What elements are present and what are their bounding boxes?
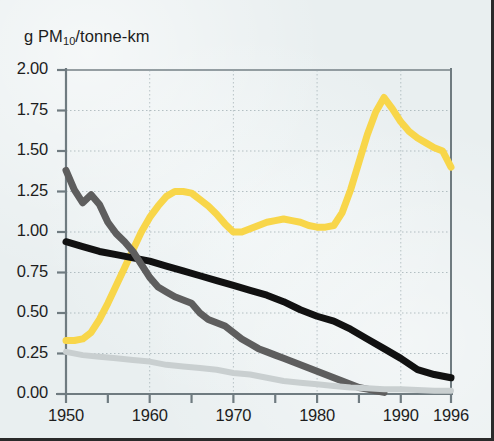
x-tick-label: 1970 [203, 406, 263, 425]
x-tick-label: 1980 [287, 406, 347, 425]
y-tick-label: 1.75 [2, 100, 48, 119]
y-tick-label: 1.50 [2, 140, 48, 159]
series-line-yellow-series [66, 98, 451, 341]
x-tick-label: 1996 [421, 406, 481, 425]
y-tick-label: 2.00 [2, 59, 48, 78]
x-tick-label: 1960 [120, 406, 180, 425]
y-tick-label: 1.00 [2, 221, 48, 240]
y-tick-label: 0.25 [2, 343, 48, 362]
chart-figure: g PM10/tonne-km 0.000.250.500.751.001.25… [0, 0, 494, 441]
y-tick-label: 0.75 [2, 262, 48, 281]
x-tick-label: 1950 [36, 406, 96, 425]
series-layer [66, 98, 451, 393]
y-tick-label: 0.00 [2, 383, 48, 402]
plot-canvas [0, 0, 494, 441]
y-tick-label: 1.25 [2, 181, 48, 200]
y-tick-label: 0.50 [2, 302, 48, 321]
